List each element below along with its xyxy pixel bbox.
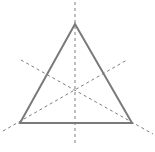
triangle-symmetry-diagram xyxy=(0,0,155,152)
equilateral-triangle xyxy=(20,24,132,123)
